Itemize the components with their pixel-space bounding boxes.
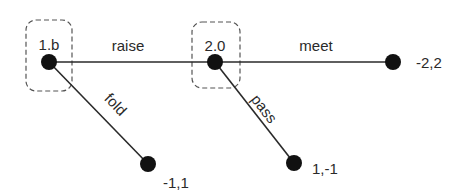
node-label-player2: 2.0 <box>205 37 226 54</box>
edge-label-pass: pass <box>248 91 281 126</box>
game-tree-diagram: 1.b 2.0 -1,1 -2,2 1,-1 raise meet fold p… <box>0 0 474 194</box>
terminal-node-pass <box>286 155 302 171</box>
edge-label-raise: raise <box>112 37 145 54</box>
payoff-label-meet: -2,2 <box>416 54 442 71</box>
edge-label-meet: meet <box>299 37 333 54</box>
payoff-label-fold: -1,1 <box>163 174 189 191</box>
terminal-node-meet <box>385 54 401 70</box>
decision-node-player2 <box>207 54 223 70</box>
terminal-node-fold <box>140 156 156 172</box>
decision-node-player1 <box>41 54 57 70</box>
edge-label-fold: fold <box>101 90 130 119</box>
edge-fold <box>49 62 148 164</box>
payoff-label-pass: 1,-1 <box>312 160 338 177</box>
edge-pass <box>215 62 294 163</box>
node-label-player1: 1.b <box>39 36 60 53</box>
